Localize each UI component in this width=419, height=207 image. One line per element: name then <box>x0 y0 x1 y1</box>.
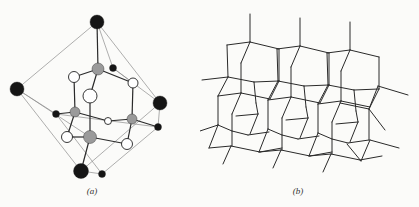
figure-a-crystal-cluster: (a) <box>0 0 200 207</box>
white-atom <box>83 89 97 103</box>
lattice-bond <box>350 50 379 57</box>
gray-atom <box>127 114 137 124</box>
lattice-bond <box>282 97 291 118</box>
lattice-bond <box>306 107 308 118</box>
lattice-bond <box>268 97 291 100</box>
lattice-bond <box>202 77 228 80</box>
lattice-bond <box>291 46 300 67</box>
white-atom <box>122 139 133 150</box>
lattice-bond <box>232 131 248 135</box>
lattice-bond <box>250 114 258 134</box>
lattice-bond <box>332 101 341 122</box>
lattice-bond <box>223 146 231 164</box>
lattice-bond <box>227 42 250 45</box>
lattice-bond <box>236 114 258 116</box>
lattice-bond <box>341 50 350 71</box>
lattice-bond <box>350 122 358 142</box>
lattice-bond <box>232 93 241 114</box>
lattice-bond <box>327 53 328 85</box>
frame-edge <box>17 89 81 171</box>
lattice-bond <box>256 103 258 114</box>
lattice-bond <box>282 135 298 139</box>
black-atom <box>53 111 60 118</box>
black-atom <box>90 15 104 29</box>
white-atom <box>69 72 80 83</box>
lattice-bond <box>336 122 358 124</box>
lattice-bond <box>268 129 282 135</box>
lattice-bond <box>356 111 358 122</box>
lattice-bond <box>270 81 279 99</box>
black-atom <box>155 124 162 131</box>
lattice-bond <box>318 85 328 104</box>
white-atom <box>105 118 112 125</box>
lattice-bond <box>354 89 379 90</box>
lattice-bond <box>250 42 279 49</box>
lattice-network-drawing <box>200 0 419 207</box>
lattice-bond <box>304 86 306 107</box>
lattice-bond <box>277 49 278 81</box>
lattice-bond <box>332 139 348 143</box>
lattice-bond <box>378 86 408 95</box>
figure-b-caption: (b) <box>293 186 304 196</box>
black-atom <box>74 164 89 179</box>
lattice-bond <box>268 81 278 100</box>
figure-a-caption: (a) <box>87 186 98 196</box>
lattice-bond <box>241 42 250 63</box>
lattice-bond <box>327 50 350 53</box>
lattice-bond <box>300 46 329 53</box>
lattice-bond <box>369 109 385 130</box>
black-atom <box>10 82 24 96</box>
lattice-bond <box>300 118 308 138</box>
white-atom <box>128 78 138 88</box>
lattice-bond <box>277 46 300 49</box>
black-atom <box>99 171 106 178</box>
white-atom <box>62 132 73 143</box>
frame-edge <box>97 22 160 103</box>
lattice-bond <box>281 150 310 156</box>
figure-b-lattice-network: (b) <box>200 0 419 207</box>
black-atom <box>110 65 117 72</box>
gray-atom <box>92 63 104 75</box>
lattice-bond <box>227 45 228 77</box>
gray-atom <box>84 131 97 144</box>
lattice-bond <box>318 133 332 139</box>
lattice-bond <box>354 90 356 111</box>
lattice-bond <box>320 85 329 103</box>
frame-edge <box>97 22 113 68</box>
lattice-bond <box>254 81 279 82</box>
lattice-bond <box>218 125 232 131</box>
lattice-bond <box>361 140 370 161</box>
lattice-bond <box>218 77 228 96</box>
lattice-bond <box>209 125 218 148</box>
lattice-bond <box>370 140 399 148</box>
frame-edge <box>102 127 158 174</box>
lattice-bond <box>273 150 281 168</box>
lattice-bond <box>323 154 331 172</box>
frame-edge <box>17 22 97 89</box>
lattice-bond <box>209 146 231 148</box>
lattice-bond <box>200 125 218 131</box>
lattice-bond <box>254 82 256 103</box>
lattice-bond <box>318 101 341 104</box>
gray-atom <box>70 107 80 117</box>
lattice-bond <box>231 146 260 152</box>
lattice-bond <box>218 93 241 96</box>
black-atom <box>153 96 167 110</box>
lattice-bond <box>286 118 308 120</box>
cluster-structure-drawing <box>0 0 200 207</box>
lattice-bond <box>304 85 329 86</box>
